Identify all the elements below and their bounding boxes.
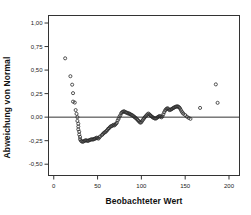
x-tick-label: 0 (52, 183, 56, 189)
x-tick-label: 100 (136, 183, 147, 189)
plot-area-border (49, 16, 240, 176)
x-axis-ticks: 050100150200 (52, 176, 235, 189)
y-tick-label: -0,25 (29, 138, 43, 144)
y-tick-label: 0,75 (31, 44, 43, 50)
y-axis-ticks: -0,50-0,250,000,250,500,751,00 (29, 20, 49, 167)
y-tick-label: 1,00 (31, 20, 43, 26)
x-tick-label: 150 (180, 183, 191, 189)
chart-root: Abweichung von Normal Beobachteter Wert … (0, 0, 251, 215)
x-tick-label: 200 (224, 183, 235, 189)
y-tick-label: 0,00 (31, 114, 43, 120)
y-tick-label: 0,50 (31, 67, 43, 73)
x-tick-label: 50 (94, 183, 101, 189)
plot-frame (49, 16, 240, 176)
y-tick-label: -0,50 (29, 161, 43, 167)
y-tick-label: 0,25 (31, 91, 43, 97)
scatter-plot-canvas: 050100150200 -0,50-0,250,000,250,500,751… (0, 0, 251, 215)
